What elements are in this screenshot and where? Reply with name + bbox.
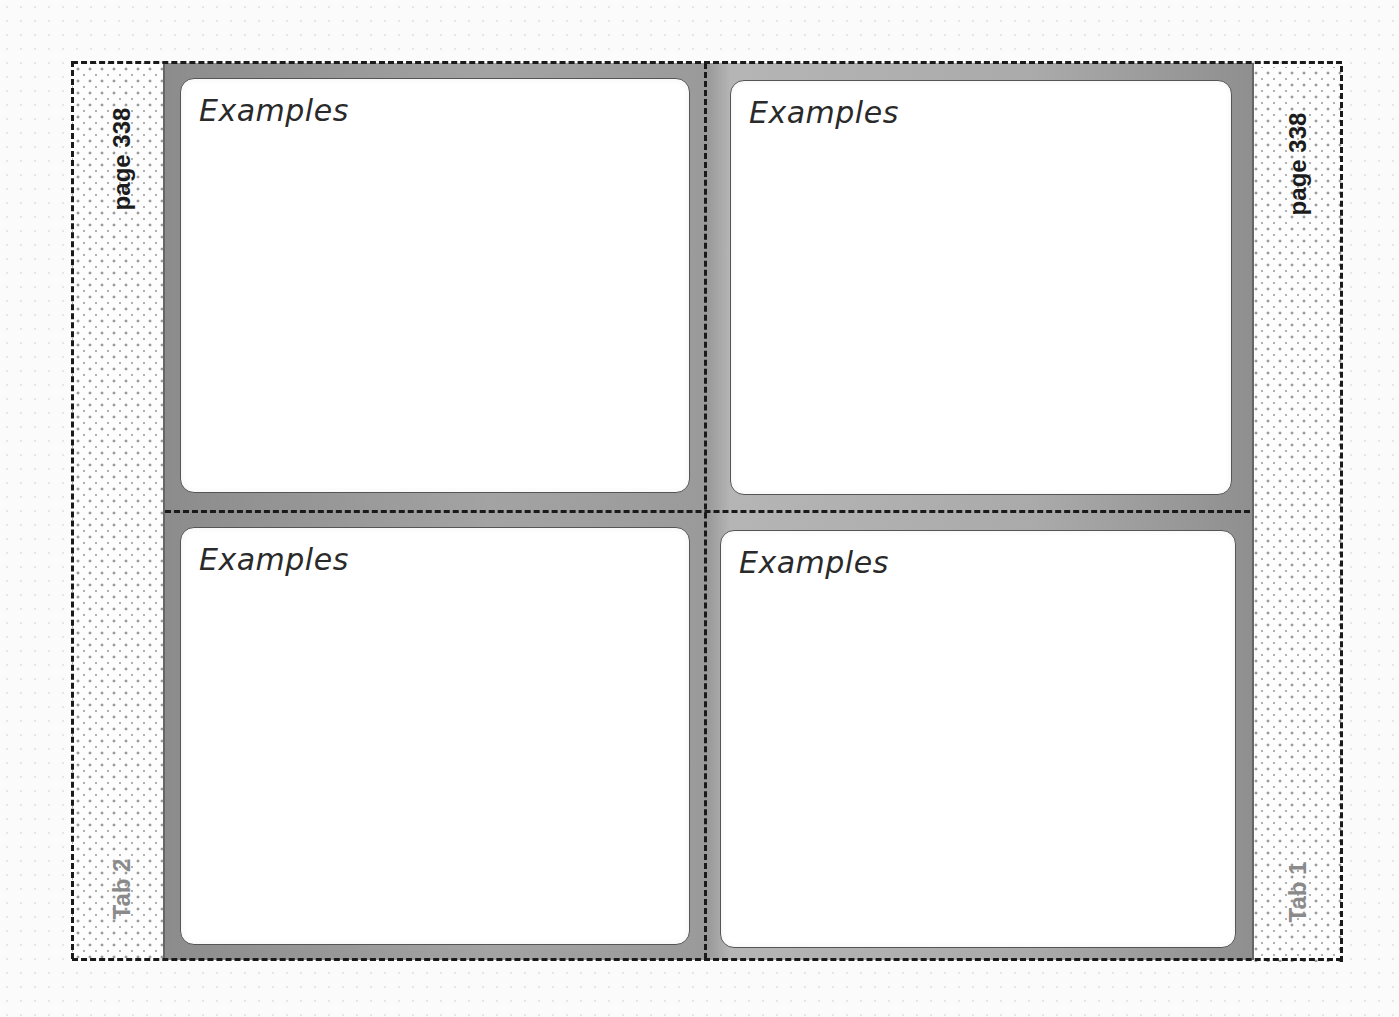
panel-title: Examples [739,545,889,580]
cut-line-left [71,61,74,959]
cut-line-top [72,61,1342,64]
cut-line-center [704,63,707,959]
left-page-label: page 338 [108,99,136,219]
right-page-label: page 338 [1284,104,1312,224]
cut-line-right [1340,66,1343,962]
panel-title: Examples [199,542,349,577]
panel-bottom-left: Examples [180,527,690,945]
panel-bottom-right: Examples [720,530,1236,948]
cut-line-bottom [72,958,1342,961]
right-tab-label: Tab 1 [1284,852,1312,932]
cut-line-middle [165,510,1250,513]
left-tab-label: Tab 2 [108,849,136,929]
panel-title: Examples [199,93,349,128]
panel-top-right: Examples [730,80,1232,495]
panel-title: Examples [749,95,899,130]
panel-top-left: Examples [180,78,690,493]
